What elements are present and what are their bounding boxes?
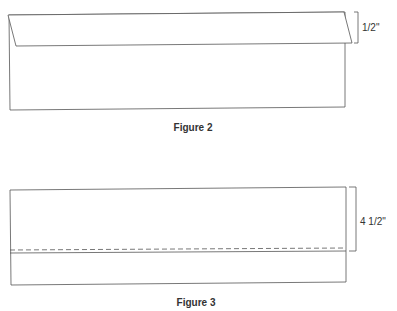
diagram-canvas: [0, 0, 397, 311]
figure-2-caption: Figure 2: [174, 122, 213, 133]
figure-2-fold-flap: [8, 12, 352, 46]
figure-2-drawing: [8, 12, 358, 110]
figure-3-drawing: [10, 187, 356, 285]
figure-2-dimension-bracket: [354, 12, 358, 43]
figure-3-caption: Figure 3: [177, 297, 216, 308]
figure-3-dimension-bracket: [349, 187, 356, 251]
figure-2-dimension-label: 1/2": [362, 22, 379, 33]
figure-3-rectangle: [10, 187, 346, 285]
figure-3-dimension-label: 4 1/2": [360, 216, 386, 227]
